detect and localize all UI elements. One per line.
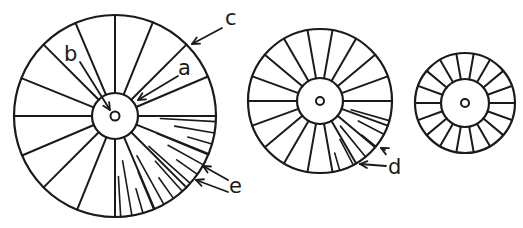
label-c: c bbox=[225, 8, 237, 29]
disc-small bbox=[415, 53, 515, 153]
disc-spoke bbox=[252, 109, 298, 126]
disc-diagram bbox=[0, 0, 523, 228]
disc-spoke bbox=[488, 86, 512, 95]
disc-spoke bbox=[456, 127, 461, 153]
disc-spoke bbox=[342, 109, 388, 126]
disc-fine-line bbox=[340, 139, 353, 165]
disc-spoke bbox=[469, 54, 474, 80]
disc-spoke bbox=[488, 111, 512, 120]
disc-fine-line bbox=[177, 160, 198, 175]
disc-spoke bbox=[440, 124, 453, 147]
disc-center-pit bbox=[316, 97, 324, 105]
disc-medium bbox=[248, 29, 392, 173]
disc-spoke bbox=[307, 30, 316, 78]
disc-large bbox=[14, 15, 216, 217]
disc-fine-line bbox=[123, 161, 132, 216]
disc-center-pit bbox=[461, 99, 469, 107]
arrow-shaft bbox=[203, 166, 228, 180]
disc-fine-line bbox=[160, 119, 215, 122]
label-e: e bbox=[229, 176, 242, 197]
disc-center-pit bbox=[111, 112, 120, 121]
disc-spoke bbox=[324, 30, 333, 78]
disc-fine-line bbox=[168, 145, 203, 165]
disc-spoke bbox=[22, 125, 94, 155]
disc-spoke bbox=[252, 76, 298, 93]
disc-spoke bbox=[136, 77, 208, 107]
disc-fine-line bbox=[188, 137, 212, 144]
label-d: d bbox=[388, 157, 401, 178]
disc-spoke bbox=[427, 118, 447, 135]
disc-spoke bbox=[427, 71, 447, 88]
arrow-d1 bbox=[381, 148, 389, 154]
disc-fine-line bbox=[157, 133, 208, 154]
disc-spoke bbox=[418, 86, 442, 95]
disc-spoke bbox=[456, 54, 461, 80]
disc-fine-line bbox=[136, 189, 143, 213]
arrow-head-icon bbox=[381, 148, 389, 154]
disc-fine-line bbox=[335, 153, 340, 170]
label-a: a bbox=[178, 58, 191, 79]
label-b: b bbox=[64, 44, 77, 65]
disc-spoke bbox=[324, 124, 333, 172]
arrow-e2 bbox=[196, 179, 228, 192]
disc-spoke bbox=[307, 124, 316, 172]
disc-spoke bbox=[440, 60, 453, 83]
disc-fine-line bbox=[159, 178, 174, 199]
arrow-shaft bbox=[192, 28, 222, 44]
disc-hub bbox=[297, 78, 343, 124]
arrow-d2 bbox=[360, 161, 386, 168]
disc-fine-line bbox=[118, 177, 120, 217]
disc-spoke bbox=[477, 124, 490, 147]
disc-spoke bbox=[483, 118, 503, 135]
arrow-c bbox=[192, 28, 222, 44]
disc-fine-line bbox=[155, 161, 182, 191]
disc-spoke bbox=[342, 76, 388, 93]
disc-hub bbox=[441, 79, 489, 127]
discs-group bbox=[14, 15, 515, 217]
disc-spoke bbox=[483, 71, 503, 88]
disc-fine-line bbox=[175, 126, 215, 133]
disc-spoke bbox=[418, 111, 442, 120]
disc-spoke bbox=[76, 23, 106, 95]
arrow-e1 bbox=[203, 166, 228, 180]
disc-spoke bbox=[469, 127, 474, 153]
disc-fine-line bbox=[362, 135, 376, 146]
disc-spoke bbox=[477, 60, 490, 83]
